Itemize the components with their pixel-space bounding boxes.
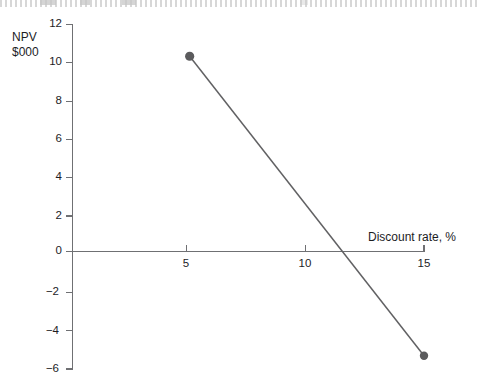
npv-sensitivity-chart: NPV $000 12 10 8 6 4 2 0 −2 −4 −6 5 10 1… xyxy=(0,0,480,386)
y-tick-label-4: 4 xyxy=(36,171,62,183)
y-axis-title: NPV $000 xyxy=(12,30,39,60)
y-tick-label-2: 2 xyxy=(36,210,62,222)
x-tick-label-5: 5 xyxy=(171,258,201,270)
x-tick-label-15: 15 xyxy=(409,258,439,270)
y-tick-label-0: 0 xyxy=(36,245,62,257)
x-axis-title: Discount rate, % xyxy=(368,231,456,243)
x-axis-ticks xyxy=(187,245,425,252)
y-axis-ticks xyxy=(66,25,73,370)
y-tick-label-6: 6 xyxy=(36,133,62,145)
y-tick-label-12: 12 xyxy=(36,18,62,30)
y-tick-label-minus-2: −2 xyxy=(33,286,59,298)
y-axis-title-line-1: NPV xyxy=(12,30,39,45)
x-tick-label-10: 10 xyxy=(290,258,320,270)
data-point-marker xyxy=(420,352,428,360)
data-point-marker xyxy=(185,52,194,61)
y-tick-label-minus-6: −6 xyxy=(33,363,59,375)
y-tick-label-10: 10 xyxy=(36,56,62,68)
y-axis-title-line-2: $000 xyxy=(12,45,39,60)
chart-plot-svg xyxy=(0,0,480,386)
y-tick-label-minus-4: −4 xyxy=(33,325,59,337)
npv-series-line xyxy=(190,56,424,356)
y-tick-label-8: 8 xyxy=(36,95,62,107)
